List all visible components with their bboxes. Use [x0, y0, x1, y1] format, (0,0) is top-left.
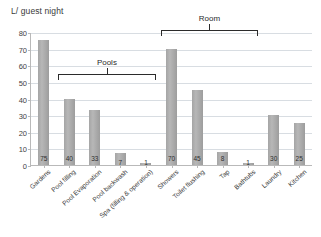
y-axis-tick-label: 50 — [19, 78, 27, 87]
y-axis-tick-label: 40 — [19, 95, 27, 104]
chart-axis-title: L/ guest night — [11, 6, 63, 16]
y-axis-tick-label: 0 — [23, 162, 27, 171]
bar[interactable]: 45 — [192, 90, 203, 165]
bar-slot: 45 — [184, 33, 210, 165]
bar-slot: 1 — [235, 33, 261, 165]
bar-value-label: 75 — [40, 155, 47, 162]
x-axis-tick-label: Laundry — [260, 168, 282, 189]
x-axis-labels: GardensPool fillingPool EvaporationPool … — [30, 168, 312, 234]
bracket-stem — [209, 24, 210, 30]
bar[interactable]: 1 — [140, 163, 151, 165]
bar-slot: 75 — [31, 33, 57, 165]
group-label: Room — [199, 14, 220, 23]
bar-value-label: 1 — [246, 159, 250, 166]
y-axis-tick-mark — [28, 166, 31, 167]
group-bracket-room: Room — [161, 22, 258, 36]
plot-area: 754033717045813025 01020304050607080 — [30, 33, 312, 166]
bar-slot: 7 — [108, 33, 134, 165]
bar-slot: 33 — [82, 33, 108, 165]
y-axis-tick-label: 20 — [19, 128, 27, 137]
bar[interactable]: 1 — [243, 163, 254, 165]
x-axis-tick-label: Showers — [156, 168, 180, 190]
bracket-span — [58, 74, 155, 80]
bar-slot: 8 — [210, 33, 236, 165]
y-axis-tick-label: 30 — [19, 112, 27, 121]
bar-series: 754033717045813025 — [31, 33, 312, 165]
y-axis-tick-label: 70 — [19, 45, 27, 54]
y-axis-tick-mark — [28, 66, 31, 67]
x-axis-tick-label: Gardens — [28, 168, 51, 190]
y-axis-tick-label: 80 — [19, 29, 27, 38]
bar-slot: 1 — [133, 33, 159, 165]
bar[interactable]: 25 — [294, 123, 305, 165]
y-axis-tick-mark — [28, 133, 31, 134]
y-axis-tick-mark — [28, 50, 31, 51]
y-axis-tick-label: 60 — [19, 62, 27, 71]
bar-value-label: 70 — [168, 155, 175, 162]
bar-value-label: 8 — [221, 155, 225, 162]
group-label: Pools — [97, 58, 117, 67]
bar[interactable]: 75 — [38, 40, 49, 165]
x-axis-tick-label: Bathtubs — [233, 168, 257, 191]
bar[interactable]: 8 — [217, 152, 228, 165]
bar-value-label: 30 — [270, 155, 277, 162]
y-axis-tick-label: 10 — [19, 145, 27, 154]
y-axis-tick-mark — [28, 33, 31, 34]
bracket-stem — [107, 68, 108, 74]
bar-value-label: 33 — [91, 155, 98, 162]
bar-slot: 25 — [286, 33, 312, 165]
bar[interactable]: 30 — [268, 115, 279, 165]
y-axis-tick-mark — [28, 100, 31, 101]
x-axis-tick-label: Kitchen — [287, 168, 308, 188]
bar-value-label: 45 — [193, 155, 200, 162]
bar[interactable]: 40 — [64, 99, 75, 166]
bar-value-label: 40 — [66, 155, 73, 162]
y-axis-tick-mark — [28, 149, 31, 150]
bar-chart: L/ guest night 754033717045813025 010203… — [0, 0, 321, 237]
group-bracket-pools: Pools — [58, 66, 155, 80]
bracket-span — [161, 30, 258, 36]
bar-value-label: 1 — [144, 159, 148, 166]
y-axis-tick-mark — [28, 83, 31, 84]
bar-value-label: 25 — [296, 155, 303, 162]
bar-slot: 30 — [261, 33, 287, 165]
bar-value-label: 7 — [119, 159, 123, 166]
bar[interactable]: 33 — [89, 110, 100, 165]
x-axis-tick-label: Tap — [218, 168, 231, 180]
bar-slot: 40 — [57, 33, 83, 165]
bar-slot: 70 — [159, 33, 185, 165]
bar[interactable]: 70 — [166, 49, 177, 165]
bar[interactable]: 7 — [115, 153, 126, 165]
x-axis-tick-label: Spa (filling & operation) — [98, 168, 154, 219]
y-axis-tick-mark — [28, 116, 31, 117]
